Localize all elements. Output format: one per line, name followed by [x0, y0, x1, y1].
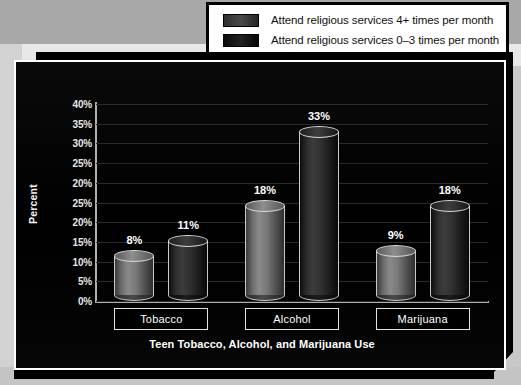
plot-area: 8%11%18%33%9%18% — [96, 104, 488, 301]
bar-cylinder: 9% — [376, 251, 416, 301]
bar-cylinder: 8% — [114, 256, 154, 301]
gridline — [96, 163, 488, 164]
bar-value-label: 8% — [111, 234, 157, 246]
bar-top-ellipse — [376, 245, 416, 257]
gridline — [96, 203, 488, 204]
bar-cylinder: 33% — [299, 132, 339, 301]
bar-value-label: 9% — [373, 229, 419, 241]
bar-top-ellipse — [299, 126, 339, 138]
legend-entry-label: Attend religious services 4+ times per m… — [271, 14, 493, 26]
y-axis-title: Percent — [27, 184, 39, 224]
bar-body — [376, 251, 416, 295]
y-axis-tick-label: 0% — [78, 296, 92, 307]
legend-swatch-black-icon — [223, 34, 259, 47]
y-axis-tick-labels: 40%35%30%25%20%25%20%15%10%5%0% — [46, 104, 92, 301]
y-axis-tick-label: 10% — [73, 256, 92, 267]
gridline — [96, 301, 488, 302]
bar-value-label: 33% — [296, 110, 342, 122]
bar-body — [430, 206, 470, 295]
category-label-marijuana: Marijuana — [376, 308, 470, 330]
y-axis-tick-label: 35% — [73, 118, 92, 129]
bar-cylinder: 11% — [168, 241, 208, 301]
gridline — [96, 124, 488, 125]
y-axis-tick-label: 25% — [73, 197, 92, 208]
bar-top-ellipse — [245, 200, 285, 212]
gridline — [96, 104, 488, 105]
y-axis-tick-label: 40% — [73, 99, 92, 110]
legend-entry-label: Attend religious services 0–3 times per … — [271, 34, 499, 46]
bar-body — [168, 241, 208, 295]
category-label-tobacco: Tobacco — [114, 308, 208, 330]
category-label-row: TobaccoAlcoholMarijuana — [96, 308, 488, 332]
y-axis-tick-label: 30% — [73, 138, 92, 149]
y-axis-tick-label: 25% — [73, 158, 92, 169]
category-label-alcohol: Alcohol — [245, 308, 339, 330]
chart-frame: Percent 40%35%30%25%20%25%20%15%10%5%0% … — [14, 60, 506, 370]
x-axis-title: Teen Tobacco, Alcohol, and Marijuana Use — [16, 338, 506, 350]
chart-screenshot: Percent 40%35%30%25%20%25%20%15%10%5%0% … — [0, 0, 521, 385]
bar-value-label: 18% — [242, 184, 288, 196]
bar-top-ellipse — [430, 200, 470, 212]
bar-cylinder: 18% — [430, 206, 470, 301]
legend-entry: Attend religious services 0–3 times per … — [223, 30, 506, 50]
chart-legend: Attend religious services 4+ times per m… — [206, 2, 509, 55]
bar-value-label: 18% — [427, 184, 473, 196]
legend-entry: Attend religious services 4+ times per m… — [223, 10, 506, 30]
legend-swatch-dark-gray-icon — [223, 14, 259, 27]
bar-body — [245, 206, 285, 295]
y-axis-tick-label: 5% — [78, 276, 92, 287]
bar-cylinder: 18% — [245, 206, 285, 301]
y-axis-tick-label: 20% — [73, 217, 92, 228]
y-axis-tick-label: 15% — [73, 236, 92, 247]
gridline — [96, 143, 488, 144]
y-axis-tick-label: 20% — [73, 177, 92, 188]
bar-value-label: 11% — [165, 219, 211, 231]
bar-body — [299, 132, 339, 295]
